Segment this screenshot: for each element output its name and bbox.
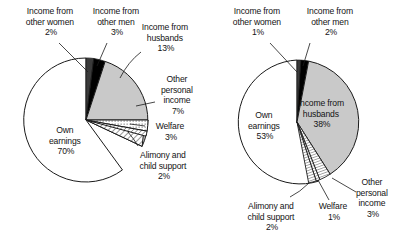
label-other-personal-income-right: Other personal income 3% [356, 177, 390, 219]
charts-svg: Income from other women 2% Income from o… [0, 0, 397, 246]
pie-chart-figure: Income from other women 2% Income from o… [0, 0, 397, 246]
right-pie-chart: Income from other women 1% Income from o… [233, 6, 390, 232]
label-other-personal-income-left: Other personal income 7% [161, 74, 195, 116]
label-other-men-left: Income from other men 3% [93, 6, 141, 37]
left-pie-chart: Income from other women 2% Income from o… [24, 6, 195, 182]
leader-alimony-right [290, 183, 309, 197]
label-welfare-right: Welfare 1% [319, 201, 350, 222]
label-other-women-right: Income from other women 1% [233, 6, 283, 37]
label-alimony-right: Alimony and child support 2% [247, 201, 296, 232]
label-husbands-left: Income from husbands 13% [142, 22, 190, 53]
label-other-men-right: Income from other men 2% [307, 6, 355, 37]
leader-other-personal-right [332, 178, 356, 192]
label-alimony-left: Alimony and child support 2% [139, 150, 188, 181]
label-other-women-left: Income from other women 2% [26, 6, 76, 37]
leader-welfare-right [318, 180, 329, 200]
label-welfare-left: Welfare 3% [156, 121, 187, 142]
